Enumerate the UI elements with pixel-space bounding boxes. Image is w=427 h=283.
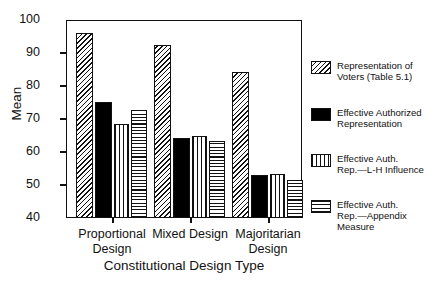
x-tick-mark-mixed [190, 218, 192, 223]
bar-majoritarian-effective-auth-rep-appendix [287, 180, 303, 218]
y-tick-label-50: 50 [14, 178, 40, 191]
legend-label-effective-auth-rep-lh-influence: Effective Auth. Rep.—L-H Influence [337, 153, 424, 175]
bar-proportional-representation-of-voters [76, 33, 93, 218]
x-group-label-majoritarian: Majoritarian Design [220, 227, 316, 256]
diagonal-hatch-swatch-icon [311, 61, 331, 74]
x-tick-mark-majoritarian [268, 218, 270, 223]
x-axis-title: Constitutional Design Type [66, 258, 302, 273]
legend-label-effective-auth-rep-appendix: Effective Auth. Rep.—Appendix Measure [337, 199, 407, 232]
bar-mixed-effective-authorized-representation [173, 138, 190, 218]
x-tick-mark-proportional [112, 218, 114, 223]
legend-item-effective-auth-rep-appendix: Effective Auth. Rep.—Appendix Measure [311, 199, 407, 232]
bars-layer [66, 20, 302, 218]
bar-proportional-effective-authorized-representation [95, 102, 112, 219]
bar-mixed-representation-of-voters [154, 45, 171, 218]
legend-item-representation-of-voters: Representation of Voters (Table 5.1) [311, 60, 413, 82]
y-tick-label-60: 60 [14, 145, 40, 158]
bar-mixed-effective-auth-rep-appendix [209, 141, 225, 219]
y-tick-label-90: 90 [14, 46, 40, 59]
legend-item-effective-auth-rep-lh-influence: Effective Auth. Rep.—L-H Influence [311, 153, 424, 175]
bar-proportional-effective-auth-rep-appendix [131, 110, 147, 218]
legend-label-representation-of-voters: Representation of Voters (Table 5.1) [337, 60, 413, 82]
solid-black-swatch-icon [311, 108, 331, 121]
bar-majoritarian-effective-auth-rep-lh-influence [270, 174, 285, 218]
bar-proportional-effective-auth-rep-lh-influence [114, 124, 129, 218]
legend: Representation of Voters (Table 5.1) Eff… [311, 18, 427, 232]
y-tick-label-80: 80 [14, 79, 40, 92]
bar-majoritarian-representation-of-voters [232, 72, 249, 218]
bar-chart: Mean 100 90 80 70 60 50 40 Proportional … [0, 0, 427, 283]
y-tick-label-70: 70 [14, 112, 40, 125]
horizontal-hatch-swatch-icon [311, 200, 331, 213]
vertical-hatch-swatch-icon [311, 154, 331, 167]
legend-item-effective-authorized-representation: Effective Authorized Representation [311, 107, 422, 129]
y-tick-label-40: 40 [14, 211, 40, 224]
legend-label-effective-authorized-representation: Effective Authorized Representation [337, 107, 422, 129]
y-tick-label-100: 100 [14, 13, 40, 26]
bar-majoritarian-effective-authorized-representation [251, 175, 268, 218]
bar-mixed-effective-auth-rep-lh-influence [192, 136, 207, 219]
